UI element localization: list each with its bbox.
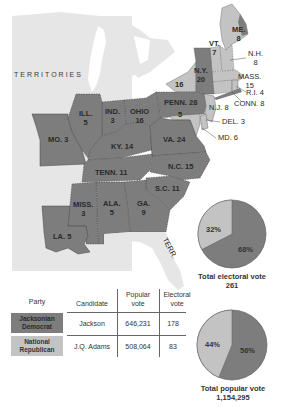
label-connecticut: CONN. 8 xyxy=(234,100,264,109)
table-row-rule xyxy=(67,335,186,336)
table-header-rule xyxy=(67,312,186,313)
cell-electoral-adams: 83 xyxy=(160,343,186,350)
party-jacksonian-democrat: Jacksonian Democrat xyxy=(11,313,63,333)
label-georgia: GA.9 xyxy=(137,200,150,217)
label-pennsylvania: PENN. 28 xyxy=(164,99,197,108)
popular-pct-jacksonian: 56% xyxy=(240,346,255,355)
label-north-carolina: N.C. 15 xyxy=(168,163,193,172)
electoral-pct-national-republican: 32% xyxy=(206,225,221,234)
popular-pct-national-republican: 44% xyxy=(205,340,220,349)
label-virginia: VA. 24 xyxy=(163,136,185,145)
party-header: Party xyxy=(10,298,64,305)
state-connecticut xyxy=(212,80,232,94)
label-new-york: N.Y.20 xyxy=(194,67,208,84)
label-maryland-split: 5 xyxy=(178,111,182,120)
label-missouri: MO. 3 xyxy=(48,136,68,145)
cell-popular-jackson: 646,231 xyxy=(118,320,158,327)
michigan-peninsula xyxy=(104,40,140,80)
cell-candidate-adams: J.Q. Adams xyxy=(66,343,118,350)
label-alabama: ALA.5 xyxy=(103,200,121,217)
electoral-vote-caption: Total electoral vote261 xyxy=(190,272,274,290)
electoral-vote-header: Electoral vote xyxy=(160,291,194,308)
cell-popular-adams: 508,064 xyxy=(118,343,158,350)
label-indiana: IND.3 xyxy=(105,108,120,125)
cell-electoral-jackson: 178 xyxy=(160,320,186,327)
label-louisiana: LA. 5 xyxy=(53,233,71,242)
label-delaware: DEL. 3 xyxy=(222,118,245,127)
label-south-carolina: S.C. 11 xyxy=(155,185,180,194)
territories-label: TERRITORIES xyxy=(14,71,83,78)
popular-vote-header: Popular vote xyxy=(120,291,156,308)
label-new-jersey: N.J. 8 xyxy=(209,104,229,113)
label-ohio: OHIO16 xyxy=(130,108,149,125)
cell-candidate-jackson: Jackson xyxy=(68,320,116,327)
label-rhode-island: R.I. 4 xyxy=(246,89,264,98)
popular-vote-caption: Total popular vote1,154,295 xyxy=(190,384,276,402)
label-vermont: VT.7 xyxy=(209,40,220,57)
electoral-pct-jacksonian: 68% xyxy=(238,245,253,254)
candidate-header: Candidate xyxy=(68,300,116,309)
label-mississippi: MISS.3 xyxy=(73,201,93,218)
label-kentucky: KY. 14 xyxy=(111,143,133,152)
label-maryland: MD. 6 xyxy=(218,134,238,143)
label-new-york-split: 16 xyxy=(175,81,183,90)
label-new-hampshire: N.H.8 xyxy=(248,50,263,67)
electoral-vote-pie xyxy=(197,199,267,269)
party-national-republican: National Republican xyxy=(11,336,63,356)
label-tennessee: TENN. 11 xyxy=(95,169,128,178)
label-illinois: ILL.5 xyxy=(79,110,92,127)
label-maine: ME.8 xyxy=(232,26,245,43)
